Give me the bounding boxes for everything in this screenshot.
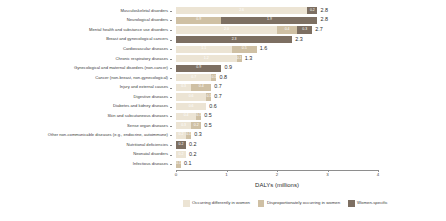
x-tick-label: 1 bbox=[225, 173, 227, 177]
x-tick-label: 0 bbox=[175, 173, 177, 177]
stacked-bar-chart: Musculoskeletal disordersNeurological di… bbox=[0, 0, 446, 221]
category-label: Neurological disorders bbox=[127, 18, 168, 22]
segment-value-label: 0.1 bbox=[237, 57, 242, 61]
segment-value-label: 1.2 bbox=[204, 57, 209, 61]
x-axis-title: DALYs (millions) bbox=[255, 182, 299, 188]
category-tick bbox=[170, 126, 172, 127]
x-tick-label: 2 bbox=[276, 173, 278, 177]
category-tick bbox=[170, 11, 172, 12]
category-label: Sense organ diseases bbox=[127, 124, 168, 128]
segment-value-label: 1.9 bbox=[267, 19, 272, 23]
bar-total-label: 2.8 bbox=[320, 18, 328, 23]
category-tick bbox=[170, 116, 172, 117]
bar-row: 0.90.9 bbox=[176, 65, 378, 72]
segment-value-label: 0.4 bbox=[199, 86, 204, 90]
category-tick bbox=[170, 97, 172, 98]
category-tick bbox=[170, 155, 172, 156]
category-label: Mental health and substance use disorder… bbox=[89, 28, 168, 32]
legend-swatch-icon bbox=[183, 200, 190, 207]
bar-row: 2.60.22.8 bbox=[176, 7, 378, 14]
segment-value-label: 2.0 bbox=[224, 28, 229, 32]
category-label: Gynecological and maternal disorders (no… bbox=[74, 66, 168, 70]
segment-value-label: 0.1 bbox=[186, 134, 191, 138]
category-label: Breast and gynecological cancers bbox=[106, 37, 168, 41]
bar-row: 1.20.11.3 bbox=[176, 55, 378, 62]
category-label: Neonatal disorders bbox=[133, 152, 168, 156]
category-tick bbox=[170, 78, 172, 79]
category-tick bbox=[170, 145, 172, 146]
segment-value-label: 2.3 bbox=[232, 38, 237, 42]
segment-value-label: 0.7 bbox=[191, 76, 196, 80]
legend-swatch-icon bbox=[258, 200, 265, 207]
category-tick bbox=[170, 107, 172, 108]
bar-total-label: 2.7 bbox=[315, 27, 323, 32]
category-tick bbox=[170, 164, 172, 165]
category-tick bbox=[170, 88, 172, 89]
segment-value-label: 0.2 bbox=[179, 143, 184, 147]
legend-label: Women-specific bbox=[357, 201, 388, 205]
bar-row: 0.60.10.7 bbox=[176, 93, 378, 100]
segment-value-label: 0.4 bbox=[285, 28, 290, 32]
category-label: Chronic respiratory diseases bbox=[116, 57, 168, 61]
bar-row: 0.20.2 bbox=[176, 151, 378, 158]
category-tick bbox=[170, 30, 172, 31]
segment-value-label: 0.6 bbox=[189, 105, 194, 109]
bar-row: 0.20.2 bbox=[176, 141, 378, 148]
category-axis-labels: Musculoskeletal disordersNeurological di… bbox=[0, 6, 172, 169]
bar-total-label: 0.2 bbox=[189, 142, 197, 147]
segment-value-label: 1.1 bbox=[201, 47, 206, 51]
segment-value-label: 0.4 bbox=[184, 115, 189, 119]
bar-total-label: 0.7 bbox=[214, 85, 222, 90]
category-label: Diabetes and kidney diseases bbox=[113, 104, 168, 108]
legend-item[interactable]: Women-specific bbox=[348, 200, 388, 207]
bar-row: 0.91.92.8 bbox=[176, 17, 378, 24]
segment-value-label: 0.3 bbox=[181, 86, 186, 90]
category-label: Skin and subcutaneous diseases bbox=[108, 114, 168, 118]
bar-row: 0.10.1 bbox=[176, 161, 378, 168]
bar-total-label: 2.3 bbox=[295, 37, 303, 42]
category-label: Digestive diseases bbox=[134, 95, 169, 99]
segment-value-label: 0.3 bbox=[302, 28, 307, 32]
segment-value-label: 0.1 bbox=[206, 95, 211, 99]
segment-value-label: 0.9 bbox=[196, 19, 201, 23]
segment-value-label: 0.3 bbox=[181, 124, 186, 128]
category-tick bbox=[170, 49, 172, 50]
x-tick-label: 4 bbox=[377, 173, 379, 177]
bar-row: 0.60.6 bbox=[176, 103, 378, 110]
bar-total-label: 0.3 bbox=[194, 133, 202, 138]
segment-value-label: 2.6 bbox=[239, 9, 244, 13]
bar-total-label: 0.5 bbox=[204, 123, 212, 128]
category-label: Nutritional deficiencies bbox=[127, 143, 168, 147]
bar-total-label: 1.3 bbox=[245, 56, 253, 61]
bar-total-label: 0.7 bbox=[214, 94, 222, 99]
segment-value-label: 0.5 bbox=[242, 47, 247, 51]
bar-row: 0.70.10.8 bbox=[176, 74, 378, 81]
category-label: Injury and external causes bbox=[120, 85, 168, 89]
bar-total-label: 0.5 bbox=[204, 114, 212, 119]
bar-total-label: 0.1 bbox=[184, 161, 192, 166]
category-tick bbox=[170, 40, 172, 41]
category-label: Cardiovascular diseases bbox=[123, 47, 168, 51]
segment-value-label: 0.1 bbox=[211, 76, 216, 80]
bar-total-label: 0.2 bbox=[189, 152, 197, 157]
legend-swatch-icon bbox=[348, 200, 355, 207]
bar-total-label: 1.6 bbox=[260, 46, 268, 51]
bar-total-label: 0.8 bbox=[219, 75, 227, 80]
category-tick bbox=[170, 20, 172, 21]
bar-row: 2.00.40.32.7 bbox=[176, 26, 378, 33]
bar-total-label: 2.8 bbox=[320, 8, 328, 13]
segment-value-label: 0.9 bbox=[196, 67, 201, 71]
chart-legend: Occurring differently in womenDisproport… bbox=[183, 200, 393, 207]
legend-item[interactable]: Disproportionately occurring in women bbox=[258, 200, 340, 207]
segment-value-label: 0.2 bbox=[310, 9, 315, 13]
segment-value-label: 0.6 bbox=[189, 95, 194, 99]
bar-row: 0.20.10.3 bbox=[176, 132, 378, 139]
segment-value-label: 0.1 bbox=[196, 115, 201, 119]
category-label: Other non-communicable diseases (e.g., e… bbox=[48, 133, 168, 137]
bar-row: 0.30.20.5 bbox=[176, 122, 378, 129]
plot-area: 2.60.22.80.91.92.82.00.40.32.72.32.31.10… bbox=[176, 6, 378, 169]
bar-row: 1.10.51.6 bbox=[176, 46, 378, 53]
legend-item[interactable]: Occurring differently in women bbox=[183, 200, 250, 207]
category-tick bbox=[170, 68, 172, 69]
category-label: Musculoskeletal disorders bbox=[120, 9, 168, 13]
